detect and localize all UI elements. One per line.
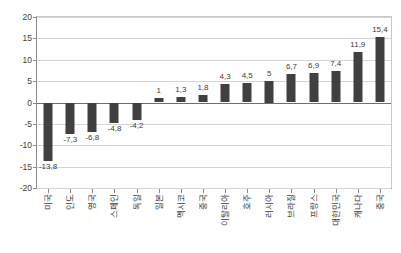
bar xyxy=(44,103,53,162)
y-axis-tick-label: -10 xyxy=(4,141,32,150)
bar-slot: -13,8 xyxy=(37,17,59,188)
bar-slot: 6,7 xyxy=(280,17,302,188)
bar xyxy=(309,73,318,102)
y-axis-tick-label: -20 xyxy=(4,184,32,193)
bars-container: -13,8-7,3-6,8-4,8-4,211,31,84,34,556,76,… xyxy=(37,17,391,188)
bar-chart: 20151050-5-10-15-20 -13,8-7,3-6,8-4,8-4,… xyxy=(0,0,401,253)
bar xyxy=(375,37,384,103)
y-axis-tick-mark xyxy=(33,38,36,39)
bar xyxy=(221,84,230,102)
bar-slot: -6,8 xyxy=(81,17,103,188)
x-axis-category-label: 중국 xyxy=(199,194,208,210)
x-axis-category-label: 캐나다 xyxy=(354,194,363,218)
y-axis-tick-mark xyxy=(33,167,36,168)
bar-slot: 1,8 xyxy=(192,17,214,188)
bar xyxy=(66,103,75,134)
x-axis-tick-mark xyxy=(336,189,337,193)
bar-value-label: -7,3 xyxy=(63,136,77,144)
bar-slot: 15,4 xyxy=(369,17,391,188)
x-axis-tick-mark xyxy=(247,189,248,193)
x-axis-tick-mark xyxy=(48,189,49,193)
bar xyxy=(88,103,97,132)
x-axis-category-label: 인도 xyxy=(66,194,75,210)
bar xyxy=(198,95,207,103)
y-axis-tick-mark xyxy=(33,103,36,104)
bar-value-label: 6,9 xyxy=(308,62,319,70)
y-axis-tick-label: 5 xyxy=(4,77,32,86)
bar-slot: -4,8 xyxy=(103,17,125,188)
x-axis-category-label: 미국 xyxy=(44,194,53,210)
bar-value-label: 1,3 xyxy=(175,86,186,94)
bar-slot: 11,9 xyxy=(347,17,369,188)
bar xyxy=(265,81,274,102)
bar xyxy=(176,97,185,103)
y-axis-tick-mark xyxy=(33,17,36,18)
bar-slot: 4,3 xyxy=(214,17,236,188)
bar xyxy=(132,103,141,121)
x-axis-category-label: 멕시코 xyxy=(177,194,186,218)
bar-slot: 6,9 xyxy=(303,17,325,188)
bar-value-label: 15,4 xyxy=(372,26,388,34)
x-axis-category-label: 이탈리아 xyxy=(221,194,230,226)
y-axis-tick-mark xyxy=(33,145,36,146)
y-axis-tick-label: -15 xyxy=(4,162,32,171)
x-axis-tick-mark xyxy=(114,189,115,193)
bar xyxy=(287,74,296,103)
bar-slot: 1 xyxy=(148,17,170,188)
y-axis-tick-label: -5 xyxy=(4,120,32,129)
y-axis-tick-mark xyxy=(33,188,36,189)
x-axis-tick-mark xyxy=(225,189,226,193)
bar-value-label: 4,5 xyxy=(242,72,253,80)
x-axis-tick-mark xyxy=(92,189,93,193)
y-axis-tick-mark xyxy=(33,60,36,61)
bar-slot: 5 xyxy=(258,17,280,188)
x-axis-tick-mark xyxy=(291,189,292,193)
y-axis-tick-label: 15 xyxy=(4,34,32,43)
x-axis-tick-mark xyxy=(269,189,270,193)
bar xyxy=(110,103,119,124)
y-axis-tick-label: 10 xyxy=(4,56,32,65)
bar-value-label: -6,8 xyxy=(85,134,99,142)
x-axis-category-label: 브라질 xyxy=(287,194,296,218)
bar xyxy=(331,71,340,103)
x-axis-category-label: 일본 xyxy=(154,194,163,210)
bar-slot: -7,3 xyxy=(59,17,81,188)
bar-value-label: 11,9 xyxy=(350,41,365,49)
x-axis-category-label: 러시아 xyxy=(265,194,274,218)
x-axis-category-label: 독일 xyxy=(132,194,141,210)
bar-slot: -4,2 xyxy=(126,17,148,188)
bar-value-label: -4,8 xyxy=(108,125,122,133)
x-axis-labels: 미국인도영국스페인독일일본멕시코중국이탈리아호주러시아브라질프랑스대한민국캐나다… xyxy=(37,194,391,252)
x-axis-tick-mark xyxy=(203,189,204,193)
y-axis-tick-label: 20 xyxy=(4,13,32,22)
x-axis-tick-mark xyxy=(159,189,160,193)
x-axis-tick-mark xyxy=(358,189,359,193)
bar-value-label: 5 xyxy=(267,70,271,78)
y-axis-tick-mark xyxy=(33,81,36,82)
bar-value-label: 7,4 xyxy=(330,60,341,68)
x-axis-category-label: 호주 xyxy=(243,194,252,210)
y-axis-tick-mark xyxy=(33,124,36,125)
bar xyxy=(243,83,252,102)
x-axis-tick-mark xyxy=(70,189,71,193)
bar-value-label: 4,3 xyxy=(220,73,231,81)
bar-value-label: -4,2 xyxy=(130,122,144,130)
x-axis-tick-mark xyxy=(137,189,138,193)
bar-value-label: 6,7 xyxy=(286,63,297,71)
bar-value-label: 1 xyxy=(156,87,160,95)
x-axis-category-label: 대한민국 xyxy=(331,194,340,226)
bar xyxy=(353,52,362,103)
gridline xyxy=(37,188,391,189)
x-axis-category-label: 중국 xyxy=(376,194,385,210)
bar-value-label: -13,8 xyxy=(39,163,57,171)
bar-value-label: 1,8 xyxy=(197,84,208,92)
x-axis-tick-mark xyxy=(314,189,315,193)
bar xyxy=(154,98,163,102)
bar-slot: 1,3 xyxy=(170,17,192,188)
x-axis-tick-mark xyxy=(181,189,182,193)
x-axis-category-label: 영국 xyxy=(88,194,97,210)
y-axis-tick-label: 0 xyxy=(4,98,32,107)
bar-slot: 7,4 xyxy=(325,17,347,188)
bar-slot: 4,5 xyxy=(236,17,258,188)
x-axis-tick-mark xyxy=(380,189,381,193)
